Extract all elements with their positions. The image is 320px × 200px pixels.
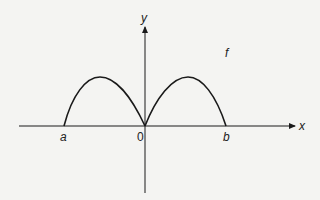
curve-left-hump xyxy=(64,77,145,126)
function-graph: y x 0 a b f xyxy=(0,0,320,200)
function-label: f xyxy=(225,46,230,60)
point-b-label: b xyxy=(223,130,230,144)
curve-right-hump xyxy=(145,77,226,126)
y-axis-label: y xyxy=(140,11,148,25)
point-a-label: a xyxy=(60,130,67,144)
x-axis-label: x xyxy=(298,119,306,133)
origin-label: 0 xyxy=(137,130,144,144)
